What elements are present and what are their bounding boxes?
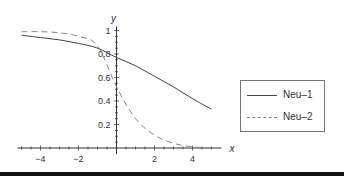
- legend-label: Neu–2: [283, 111, 312, 122]
- legend-item-neu-1: Neu–1: [241, 86, 324, 106]
- svg-text:0.6: 0.6: [98, 73, 111, 83]
- svg-text:−4: −4: [35, 154, 45, 164]
- svg-text:−2: −2: [73, 154, 83, 164]
- solid-line-swatch-icon: [247, 95, 277, 96]
- axes: −4−224x0.20.40.60.81y: [18, 13, 236, 165]
- legend: Neu–1 Neu–2: [240, 80, 325, 132]
- svg-text:0.4: 0.4: [98, 96, 111, 106]
- legend-item-neu-2: Neu–2: [241, 108, 324, 128]
- svg-text:2: 2: [152, 154, 157, 164]
- bottom-border: [0, 172, 344, 176]
- svg-text:0.2: 0.2: [98, 120, 111, 130]
- svg-text:y: y: [110, 13, 117, 24]
- legend-label: Neu–1: [283, 89, 312, 100]
- dashed-line-swatch-icon: [247, 117, 277, 118]
- svg-text:4: 4: [190, 154, 195, 164]
- svg-text:1: 1: [105, 26, 110, 36]
- svg-text:x: x: [229, 143, 236, 154]
